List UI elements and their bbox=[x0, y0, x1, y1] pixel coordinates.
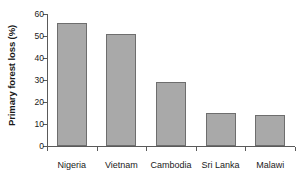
x-axis-tick bbox=[146, 147, 147, 151]
x-axis-tick bbox=[245, 147, 246, 151]
bar-sri-lanka bbox=[206, 113, 236, 146]
y-axis-tick-label: 40 bbox=[35, 53, 44, 63]
x-axis-label-cambodia: Cambodia bbox=[150, 160, 191, 170]
x-axis-label-malawi: Malawi bbox=[256, 160, 284, 170]
y-axis-tick-label: 0 bbox=[39, 141, 44, 151]
y-axis-tick-label: 60 bbox=[35, 9, 44, 19]
bar-nigeria bbox=[57, 23, 87, 146]
y-axis-title-text: Primary forest loss (%) bbox=[7, 24, 18, 125]
y-axis-line bbox=[47, 14, 48, 146]
x-axis-tick bbox=[295, 147, 296, 151]
y-axis-title: Primary forest loss (%) bbox=[2, 0, 22, 150]
plot-area: 0102030405060 NigeriaVietnamCambodiaSri … bbox=[47, 8, 295, 146]
y-axis-tick-label: 20 bbox=[35, 97, 44, 107]
bar-chart: Primary forest loss (%) 0102030405060 Ni… bbox=[0, 0, 299, 173]
x-axis-tick bbox=[196, 147, 197, 151]
x-axis-label-vietnam: Vietnam bbox=[105, 160, 138, 170]
bar-vietnam bbox=[106, 34, 136, 146]
x-axis-label-nigeria: Nigeria bbox=[58, 160, 87, 170]
y-axis-tick-label: 10 bbox=[35, 119, 44, 129]
y-axis-tick-label: 50 bbox=[35, 31, 44, 41]
x-axis-tick bbox=[47, 147, 48, 151]
y-axis-tick-label: 30 bbox=[35, 75, 44, 85]
x-axis-line bbox=[47, 146, 295, 147]
x-axis-label-sri-lanka: Sri Lanka bbox=[202, 160, 240, 170]
bar-malawi bbox=[255, 115, 285, 146]
x-axis-tick bbox=[97, 147, 98, 151]
bar-cambodia bbox=[156, 82, 186, 146]
